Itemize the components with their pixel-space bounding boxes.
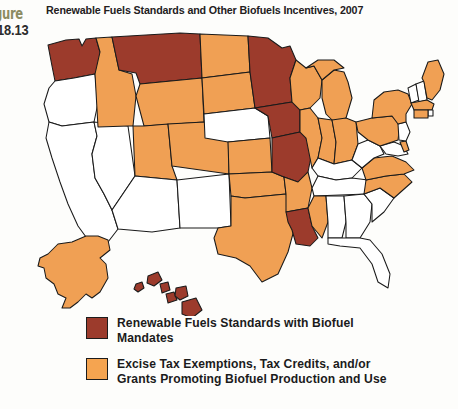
legend-item-mandates[interactable]: Renewable Fuels Standards with Biofuel M…	[86, 316, 452, 345]
mandate-red-swatch	[86, 317, 108, 339]
state-TN[interactable]	[312, 176, 368, 196]
state-OR[interactable]	[44, 74, 98, 126]
state-NJ[interactable]	[398, 122, 410, 141]
state-MI[interactable]	[322, 70, 352, 124]
state-HI-3[interactable]	[160, 282, 170, 293]
figure-title: Renewable Fuels Standards and Other Biof…	[46, 4, 363, 16]
legend-incentives-line1: Excise Tax Exemptions, Tax Credits, and/…	[117, 357, 371, 371]
state-CT[interactable]	[414, 110, 428, 118]
state-NE[interactable]	[204, 108, 270, 142]
state-NM[interactable]	[177, 174, 231, 228]
map-legend: Renewable Fuels Standards with Biofuel M…	[86, 316, 452, 398]
figure-label-word: gure	[0, 7, 34, 22]
state-WY[interactable]	[136, 78, 204, 126]
state-OK[interactable]	[229, 172, 286, 198]
legend-item-incentives[interactable]: Excise Tax Exemptions, Tax Credits, and/…	[86, 357, 452, 386]
state-GA[interactable]	[344, 194, 372, 238]
legend-label-mandates: Renewable Fuels Standards with Biofuel M…	[117, 316, 354, 345]
state-HI-1[interactable]	[134, 282, 144, 292]
legend-incentives-line2: Grants Promoting Biofuel Production and …	[117, 372, 387, 387]
state-HI-6[interactable]	[182, 298, 202, 316]
legend-mandates-line2: Mandates	[117, 331, 354, 346]
state-FL[interactable]	[328, 238, 390, 288]
legend-label-incentives: Excise Tax Exemptions, Tax Credits, and/…	[117, 357, 387, 386]
incentive-orange-swatch	[86, 358, 108, 380]
legend-mandates-line1: Renewable Fuels Standards with Biofuel	[117, 316, 354, 330]
state-HI-5[interactable]	[175, 286, 188, 300]
state-SD[interactable]	[202, 72, 255, 114]
state-AK[interactable]	[38, 236, 110, 308]
state-AL[interactable]	[326, 196, 346, 238]
state-RI[interactable]	[428, 110, 433, 116]
state-PA[interactable]	[356, 116, 400, 146]
state-KS[interactable]	[228, 138, 272, 174]
state-ND[interactable]	[200, 34, 250, 78]
state-MN[interactable]	[248, 36, 296, 108]
us-choropleth-map	[0, 26, 458, 316]
